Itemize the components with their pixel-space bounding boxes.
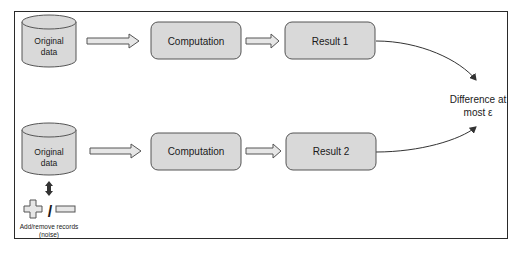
noise-label-line1: Add/remove records — [20, 223, 79, 230]
database-cylinder-2: Original data — [22, 123, 76, 175]
noise-label-line2: (noise) — [39, 231, 59, 239]
minus-icon — [56, 206, 75, 212]
result-label: Result 1 — [312, 36, 349, 47]
difference-label-line1: Difference at — [450, 94, 507, 105]
block-arrow-icon — [90, 144, 141, 158]
result-label: Result 2 — [313, 146, 350, 157]
database-cylinder-1: Original data — [22, 15, 76, 67]
computation-label: Computation — [168, 36, 225, 47]
computation-box-1: Computation — [151, 22, 241, 59]
dp-diagram: Original data Computation Result 1 Diffe… — [0, 0, 521, 253]
database-label-line2: data — [41, 158, 58, 168]
result-box-2: Result 2 — [286, 133, 376, 170]
block-arrow-icon — [246, 34, 279, 48]
computation-box-2: Computation — [151, 133, 241, 170]
difference-label-line2: most ε — [464, 107, 493, 118]
database-label-line2: data — [41, 47, 58, 57]
block-arrow-icon — [87, 34, 139, 48]
connector-curve-1 — [376, 41, 476, 80]
computation-label: Computation — [168, 146, 225, 157]
database-label-line1: Original — [34, 36, 63, 46]
result-box-1: Result 1 — [285, 22, 375, 59]
slash-separator: / — [48, 203, 53, 220]
database-label-line1: Original — [34, 147, 63, 157]
connector-curve-2 — [376, 127, 476, 152]
plus-icon — [24, 200, 42, 218]
block-arrow-icon — [246, 144, 281, 158]
double-arrow-icon — [45, 181, 53, 196]
